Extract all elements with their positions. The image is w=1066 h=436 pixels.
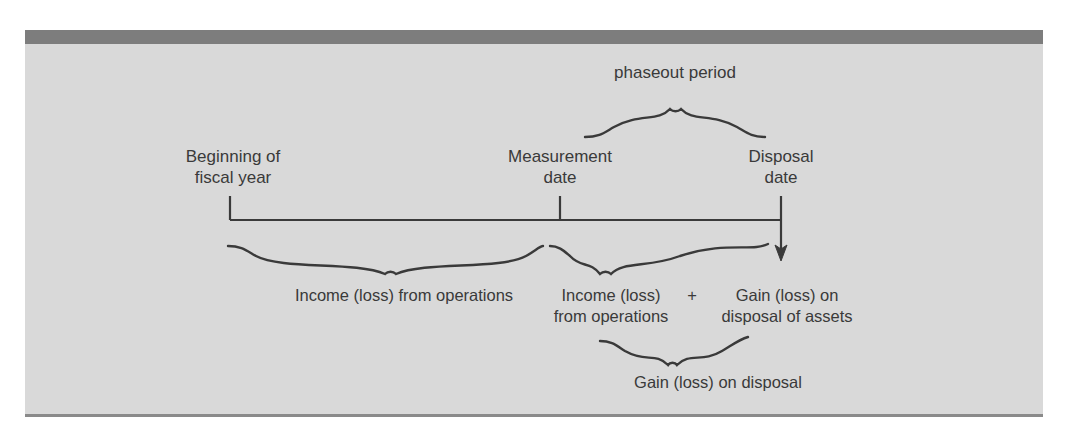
figure-top-bar — [25, 30, 1043, 44]
label-phaseout-period: phaseout period — [614, 62, 736, 83]
figure-panel — [25, 30, 1043, 415]
figure-bottom-rule — [25, 414, 1043, 417]
label-gain-loss-on-disposal: Gain (loss) on disposal — [634, 372, 802, 393]
label-plus-sign: + — [687, 285, 697, 306]
label-disposal-date: Disposal date — [748, 146, 813, 188]
label-income-loss-from-operations-period-one: Income (loss) from operations — [295, 285, 513, 306]
label-beginning-of-fiscal-year: Beginning of fiscal year — [186, 146, 281, 188]
label-measurement-date: Measurement date — [508, 146, 612, 188]
label-gain-loss-on-disposal-of-assets: Gain (loss) on disposal of assets — [721, 285, 852, 327]
label-income-loss-from-operations-period-two: Income (loss) from operations — [554, 285, 669, 327]
